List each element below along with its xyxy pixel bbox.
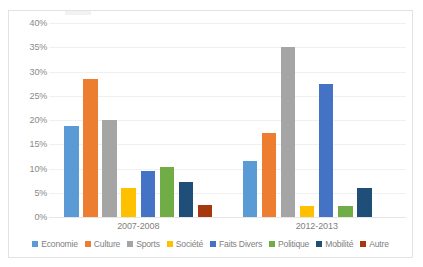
- bar-slot: [279, 23, 298, 217]
- legend-swatch-icon: [210, 241, 216, 247]
- bar[interactable]: [262, 133, 276, 217]
- y-axis-tick-label: 5%: [34, 188, 47, 198]
- x-axis-tick-label: 2007-2008: [56, 221, 220, 231]
- bar-group: [235, 23, 399, 217]
- legend-item[interactable]: Sports: [127, 239, 160, 249]
- legend-item[interactable]: Autre: [360, 239, 389, 249]
- bar-slot: [374, 23, 393, 217]
- y-axis-tick-label: 35%: [30, 42, 47, 52]
- legend-item[interactable]: Société: [167, 239, 203, 249]
- bar-slot: [298, 23, 317, 217]
- y-axis: 40%35%30%25%20%15%10%5%0%: [15, 23, 47, 217]
- bar[interactable]: [338, 206, 352, 217]
- legend-label: Culture: [94, 239, 120, 249]
- bar-slot: [336, 23, 355, 217]
- legend-item[interactable]: Mobilité: [316, 239, 353, 249]
- legend-label: Politique: [278, 239, 309, 249]
- bar-slot: [176, 23, 195, 217]
- y-axis-tick-label: 15%: [30, 139, 47, 149]
- bar[interactable]: [319, 84, 333, 217]
- bar[interactable]: [198, 205, 212, 217]
- legend-label: Autre: [369, 239, 389, 249]
- chart-legend: EconomieCultureSportsSociétéFaits Divers…: [9, 239, 412, 249]
- chart-plot-area: [49, 23, 406, 217]
- y-axis-tick-label: 10%: [30, 164, 47, 174]
- bar[interactable]: [121, 188, 135, 217]
- bar-slot: [317, 23, 336, 217]
- bar-slot: [241, 23, 260, 217]
- legend-swatch-icon: [127, 241, 133, 247]
- bar-slot: [195, 23, 214, 217]
- legend-item[interactable]: Economie: [32, 239, 78, 249]
- legend-label: Société: [176, 239, 203, 249]
- x-axis-tick-label: 2012-2013: [235, 221, 399, 231]
- y-axis-tick-label: 0%: [34, 212, 47, 222]
- legend-swatch-icon: [85, 241, 91, 247]
- legend-label: Sports: [136, 239, 160, 249]
- legend-swatch-icon: [167, 241, 173, 247]
- bar-slot: [157, 23, 176, 217]
- legend-item[interactable]: Faits Divers: [210, 239, 262, 249]
- chart-container: 40%35%30%25%20%15%10%5%0% 2007-2008 2012…: [8, 10, 413, 258]
- bar-slot: [355, 23, 374, 217]
- x-axis-labels: 2007-2008 2012-2013: [49, 221, 406, 237]
- legend-label: Faits Divers: [219, 239, 262, 249]
- bar[interactable]: [102, 120, 116, 217]
- legend-swatch-icon: [316, 241, 322, 247]
- legend-swatch-icon: [269, 241, 275, 247]
- bar[interactable]: [160, 167, 174, 217]
- bar[interactable]: [83, 79, 97, 217]
- legend-swatch-icon: [360, 241, 366, 247]
- bar[interactable]: [281, 47, 295, 217]
- bar[interactable]: [300, 206, 314, 217]
- bar[interactable]: [64, 126, 78, 217]
- bar[interactable]: [141, 171, 155, 217]
- legend-item[interactable]: Politique: [269, 239, 309, 249]
- legend-label: Mobilité: [325, 239, 353, 249]
- bar-slot: [81, 23, 100, 217]
- bar-slot: [62, 23, 81, 217]
- legend-swatch-icon: [32, 241, 38, 247]
- y-axis-tick-label: 20%: [30, 115, 47, 125]
- bar[interactable]: [243, 161, 257, 217]
- y-axis-tick-label: 40%: [30, 18, 47, 28]
- chart-plot-wrapper: 40%35%30%25%20%15%10%5%0% 2007-2008 2012…: [9, 11, 412, 257]
- legend-item[interactable]: Culture: [85, 239, 120, 249]
- y-axis-tick-label: 25%: [30, 91, 47, 101]
- bar[interactable]: [179, 182, 193, 217]
- gridline: [49, 217, 406, 218]
- bar[interactable]: [357, 188, 371, 217]
- bar-group: [56, 23, 220, 217]
- legend-label: Economie: [41, 239, 78, 249]
- bar-slot: [138, 23, 157, 217]
- bar-slot: [119, 23, 138, 217]
- bar-slot: [100, 23, 119, 217]
- bar-slot: [260, 23, 279, 217]
- y-axis-tick-label: 30%: [30, 67, 47, 77]
